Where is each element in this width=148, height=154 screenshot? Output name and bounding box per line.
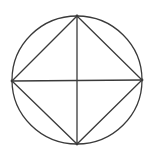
diagram-canvas <box>0 0 148 154</box>
vertex-bottom <box>76 143 79 146</box>
vertex-top <box>76 15 79 18</box>
horizontal-diameter <box>12 80 142 81</box>
vertex-right <box>141 79 144 82</box>
vertex-left <box>11 80 14 83</box>
geometry-figure <box>0 0 148 154</box>
